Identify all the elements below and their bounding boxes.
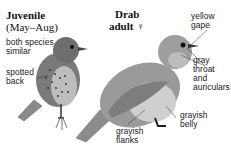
juvenile-title: Juvenile [6,9,45,21]
grayish-belly-label-line2: belly [180,120,197,129]
juvenile-season: (May–Aug) [6,21,58,33]
grayish-flanks-label-line2: flanks [116,136,138,145]
yellow-gape-label-line2: gape [191,21,210,30]
adult-title-line2: adult ♀ [109,20,144,32]
adult-title-line1: Drab [115,8,139,20]
juvenile-note-line2: similar [6,47,31,56]
spotted-back-label-line2: back [6,77,24,86]
gray-throat-label-line4: auriculars [193,83,230,92]
